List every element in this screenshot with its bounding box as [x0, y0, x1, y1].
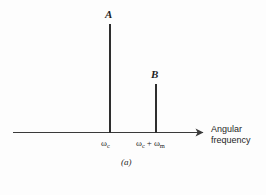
amplitude-label-a: A	[105, 9, 112, 20]
tick-label-sideband-frequency: ωc+ωm	[136, 139, 165, 148]
omega-symbol-second: ω	[154, 138, 160, 148]
spectral-line-carrier	[109, 24, 111, 133]
omega-subscript-m: m	[160, 142, 165, 149]
tick-label-carrier-frequency: ωc	[101, 139, 110, 148]
frequency-axis-line	[13, 132, 201, 133]
axis-title: Angular frequency	[211, 124, 251, 146]
axis-title-line-2: frequency	[211, 135, 251, 146]
spectral-line-sideband	[155, 84, 157, 133]
axis-arrow-right-icon	[192, 127, 204, 138]
amplitude-label-b: B	[151, 69, 158, 80]
plus-operator: +	[145, 138, 154, 148]
axis-title-line-1: Angular	[211, 124, 251, 135]
omega-subscript-c: c	[107, 142, 110, 149]
figure-caption: (a)	[121, 158, 132, 167]
omega-subscript-c: c	[142, 142, 145, 149]
spectrum-figure: A B ωc ωc+ωm Angular frequency (a)	[0, 0, 266, 195]
